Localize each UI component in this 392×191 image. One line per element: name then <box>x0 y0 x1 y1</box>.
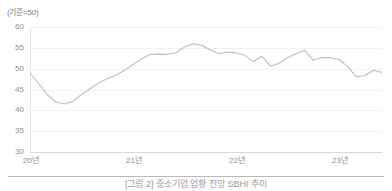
x-axis-tick-label: 21년 <box>126 156 142 165</box>
series-line-chart <box>30 27 382 152</box>
y-axis-tick-label: 45 <box>15 86 24 94</box>
series-line-path <box>30 44 382 104</box>
x-axis: 20년21년22년23년 <box>0 156 392 170</box>
gridline <box>30 152 382 153</box>
y-axis-tick-label: 30 <box>15 148 24 156</box>
chart-figure: (기준=50) 60555045403530 20년21년22년23년 [그림 … <box>0 0 392 191</box>
y-axis-tick-label: 40 <box>15 106 24 114</box>
figure-caption: [그림 2] 중소기업 업황 전망 SBHI 추이 <box>0 179 392 190</box>
x-axis-tick-label: 20년 <box>23 156 39 165</box>
y-axis-tick-label: 35 <box>15 127 24 135</box>
plot-area <box>30 27 382 152</box>
y-axis-tick-label: 50 <box>15 65 24 73</box>
x-axis-tick-label: 23년 <box>332 156 348 165</box>
y-axis-tick-label: 55 <box>15 44 24 52</box>
footer-divider <box>8 176 384 177</box>
y-axis-tick-label: 60 <box>15 23 24 31</box>
x-axis-tick-label: 22년 <box>229 156 245 165</box>
